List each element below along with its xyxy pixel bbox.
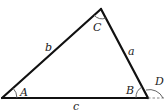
- side-a: [101, 9, 148, 98]
- triangle-diagram: A C B D b a c: [0, 0, 166, 112]
- label-angle-b: B: [125, 84, 134, 97]
- angle-arc-a: [13, 88, 17, 98]
- label-angle-a: A: [19, 86, 28, 99]
- label-side-c: c: [73, 100, 79, 112]
- label-side-a: a: [128, 45, 135, 58]
- label-angle-d: D: [154, 75, 164, 88]
- label-angle-c: C: [93, 21, 102, 34]
- label-side-b: b: [45, 41, 52, 54]
- angle-arc-b: [136, 87, 142, 98]
